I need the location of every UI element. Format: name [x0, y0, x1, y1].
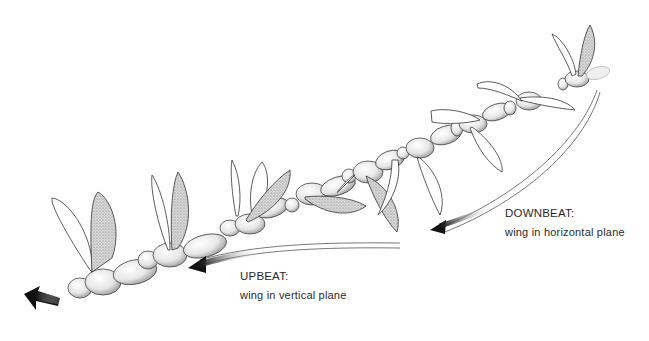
- upbeat-description: wing in vertical plane: [240, 289, 347, 301]
- upbeat-title: UPBEAT:: [240, 270, 288, 282]
- direction-arrow: [24, 286, 66, 310]
- downbeat-description: wing in horizontal plane: [505, 226, 625, 238]
- downbeat-title: DOWNBEAT:: [505, 207, 574, 219]
